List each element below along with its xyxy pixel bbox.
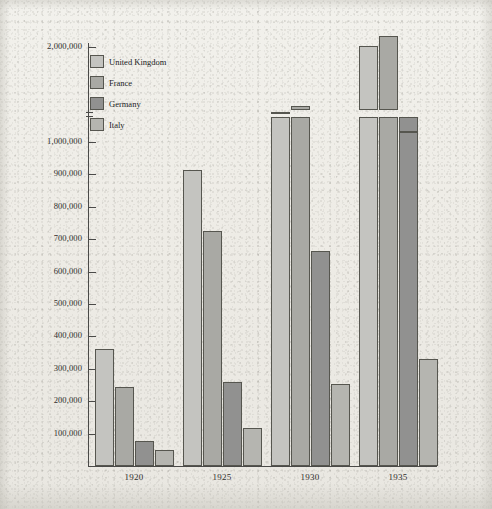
bar-1930-united-kingdom-lower[interactable] — [271, 117, 290, 466]
bar-1930-italy[interactable] — [331, 384, 350, 466]
y-axis-tick-label: 200,000 — [8, 395, 82, 405]
bar-1935-italy[interactable] — [419, 359, 438, 466]
bar-1930-france-upper[interactable] — [291, 106, 310, 110]
y-axis-tick-label: 500,000 — [8, 298, 82, 308]
y-axis-tick-label: 300,000 — [8, 363, 82, 373]
x-axis-tick-label: 1920 — [104, 472, 164, 482]
legend-label-united-kingdom: United Kingdom — [109, 57, 166, 67]
y-axis-break-mark — [86, 116, 93, 117]
y-axis-tick — [89, 336, 96, 337]
x-axis-tick-label: 1930 — [280, 472, 340, 482]
bar-1920-italy[interactable] — [155, 450, 174, 466]
bar-1930-germany[interactable] — [311, 251, 330, 466]
bar-1935-germany-upper[interactable] — [399, 131, 418, 133]
y-axis-tick-label: 700,000 — [8, 233, 82, 243]
bar-1935-france-upper[interactable] — [379, 36, 398, 110]
bar-1935-united-kingdom-lower[interactable] — [359, 117, 378, 466]
y-axis-tick — [89, 239, 96, 240]
bar-1935-united-kingdom-upper[interactable] — [359, 46, 378, 110]
legend-item-germany[interactable]: Germany — [90, 97, 141, 110]
bar-chart: 2,000,0001,000,000900,000800,000700,0006… — [0, 0, 492, 509]
bar-1935-germany-lower[interactable] — [399, 117, 418, 466]
y-axis-line — [88, 43, 89, 467]
legend-item-france[interactable]: France — [90, 76, 132, 89]
chart-page: 2,000,0001,000,000900,000800,000700,0006… — [0, 0, 492, 509]
legend-swatch-germany — [90, 97, 104, 110]
y-axis-tick-label: 800,000 — [8, 201, 82, 211]
legend-swatch-italy — [90, 118, 104, 131]
y-axis-tick-label: 600,000 — [8, 266, 82, 276]
bar-1925-france[interactable] — [203, 231, 222, 466]
bar-1920-united-kingdom[interactable] — [95, 349, 114, 466]
y-axis-tick — [89, 272, 96, 273]
x-axis-tick-label: 1935 — [368, 472, 428, 482]
y-axis-tick-label: 400,000 — [8, 330, 82, 340]
bar-1935-france-lower[interactable] — [379, 117, 398, 466]
bar-1925-united-kingdom[interactable] — [183, 170, 202, 466]
y-axis-tick-label: 1,000,000 — [8, 136, 82, 146]
legend-item-italy[interactable]: Italy — [90, 118, 125, 131]
y-axis-tick — [89, 47, 96, 48]
x-axis-line — [88, 466, 437, 467]
legend-label-germany: Germany — [109, 99, 141, 109]
y-axis-break-mark — [86, 112, 93, 113]
bar-1920-france[interactable] — [115, 387, 134, 466]
y-axis-tick — [89, 174, 96, 175]
y-axis-tick-label: 900,000 — [8, 168, 82, 178]
x-axis-tick-label: 1925 — [192, 472, 252, 482]
bar-1930-united-kingdom-upper[interactable] — [271, 112, 290, 114]
legend-item-united-kingdom[interactable]: United Kingdom — [90, 55, 166, 68]
legend-swatch-united-kingdom — [90, 55, 104, 68]
bar-1930-france-lower[interactable] — [291, 117, 310, 466]
bar-1925-italy[interactable] — [243, 428, 262, 466]
bar-1920-germany[interactable] — [135, 441, 154, 466]
y-axis-tick-label: 100,000 — [8, 428, 82, 438]
bar-1925-germany[interactable] — [223, 382, 242, 466]
y-axis-tick — [89, 304, 96, 305]
legend-swatch-france — [90, 76, 104, 89]
legend-label-france: France — [109, 78, 132, 88]
y-axis-tick — [89, 142, 96, 143]
y-axis-tick-label: 2,000,000 — [8, 41, 82, 51]
y-axis-tick — [89, 207, 96, 208]
legend-label-italy: Italy — [109, 120, 125, 130]
